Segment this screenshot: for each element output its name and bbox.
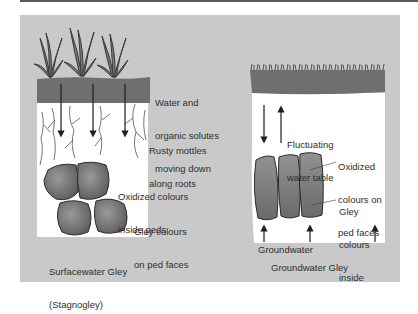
- label-line: Gley: [339, 206, 370, 217]
- label-gley-ped-faces: Gley colours on ped faces: [134, 204, 188, 281]
- label-line: inside: [339, 272, 370, 283]
- grass-plant-icon: [64, 28, 96, 76]
- label-line: colours: [339, 239, 370, 250]
- label-line: on ped faces: [134, 259, 188, 270]
- label-line: Oxidized: [338, 161, 382, 172]
- grass-fringe-icon: [251, 64, 384, 70]
- label-line: Water and: [155, 97, 219, 108]
- label-line: water table: [287, 172, 333, 183]
- label-fluctuating-water-table: Fluctuating water table: [287, 117, 333, 194]
- grass-plant-icon: [34, 33, 63, 77]
- label-gley-inside: Gley colours inside: [339, 184, 370, 294]
- title-line: Surfacewater Gley: [49, 266, 127, 277]
- label-line: Oxidized colours: [118, 191, 188, 202]
- label-groundwater: Groundwater: [258, 244, 313, 255]
- title-line: (Stagnogley): [49, 299, 127, 310]
- left-profile-title: Surfacewater Gley (Stagnogley): [49, 244, 127, 314]
- right-topsoil-band: [250, 70, 385, 94]
- right-profile-title: Groundwater Gley: [271, 262, 348, 273]
- label-line: Rusty mottles: [149, 145, 207, 156]
- label-line: Fluctuating: [287, 139, 333, 150]
- label-line: Gley colours: [134, 226, 188, 237]
- grass-plant-icon: [97, 34, 128, 77]
